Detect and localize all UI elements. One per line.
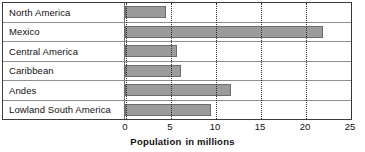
bar-chart: North America Mexico Central America Car…: [0, 0, 365, 152]
x-axis-title-part-2: in millions: [185, 136, 234, 147]
bar-andes: [125, 84, 231, 96]
category-label: Central America: [3, 42, 125, 61]
table-row: North America: [3, 3, 351, 23]
bar-track: [125, 101, 351, 120]
table-row: Lowland South America: [3, 101, 351, 120]
category-label: Caribbean: [3, 62, 125, 81]
table-row: Caribbean: [3, 62, 351, 82]
x-tick-label: 25: [345, 121, 356, 132]
x-tick-label: 10: [210, 121, 221, 132]
bar-track: [125, 42, 351, 61]
bar-track: [125, 23, 351, 42]
category-label: Lowland South America: [3, 101, 125, 120]
x-tick-label: 5: [167, 121, 172, 132]
bar-track: [125, 62, 351, 81]
x-axis-title: Populationin millions: [0, 136, 365, 147]
gridline-25: [351, 3, 352, 119]
bar-track: [125, 81, 351, 100]
table-row: Andes: [3, 81, 351, 101]
bar-mexico: [125, 26, 323, 38]
x-tick-label: 0: [122, 121, 127, 132]
chart-rows: North America Mexico Central America Car…: [3, 3, 351, 119]
bar-track: [125, 3, 351, 22]
bar-north-america: [125, 6, 166, 18]
bar-caribbean: [125, 65, 181, 77]
category-label: North America: [3, 3, 125, 22]
table-row: Central America: [3, 42, 351, 62]
x-axis-title-part-1: Population: [130, 136, 181, 147]
x-tick-label: 20: [300, 121, 311, 132]
chart-plot-frame: North America Mexico Central America Car…: [2, 2, 352, 120]
table-row: Mexico: [3, 23, 351, 43]
category-label: Andes: [3, 81, 125, 100]
x-axis: 0510152025: [2, 120, 352, 136]
bar-lowland-south-america: [125, 104, 211, 116]
bar-central-america: [125, 45, 177, 57]
category-label: Mexico: [3, 23, 125, 42]
x-tick-label: 15: [255, 121, 266, 132]
